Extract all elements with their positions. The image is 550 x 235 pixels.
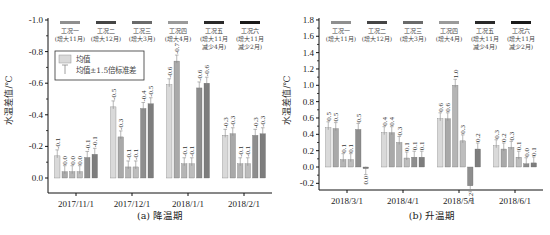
legend-case-name: 工况二 [97, 27, 115, 35]
bar [92, 154, 98, 178]
y-tick-label: 0.6 [303, 113, 315, 123]
bar [55, 156, 61, 178]
data-label: -0.1 [188, 145, 196, 157]
data-label: -0.3 [229, 115, 237, 127]
data-label: 0.5 [332, 112, 340, 121]
data-label: 0.1 [418, 141, 426, 150]
legend-case-desc: (增大11月) [55, 35, 85, 43]
legend-swatch [60, 21, 80, 24]
legend-case-name: 工况一 [61, 27, 79, 35]
y-tick-label: -0.2 [29, 141, 43, 151]
y-tick-label: 0.8 [303, 97, 315, 107]
chart-panel-a: -1.0-0.8-0.6-0.4-0.20.0 2017/11/12017/12… [3, 15, 272, 221]
y-tick-label: 0.2 [303, 146, 314, 156]
data-label: -0.2 [467, 192, 475, 204]
legend-case-desc: (增大4月) [436, 35, 463, 43]
bar [85, 157, 91, 178]
bar [174, 61, 180, 178]
legend-case-desc2: 减少2月) [509, 43, 533, 51]
case-legend-b: 工况一(增大11月)工况二(增大12月)工况三(增大3月)工况四(增大4月)工况… [326, 21, 535, 51]
legend-swatch [168, 21, 188, 24]
x-ticks-a: 2017/11/12017/12/12018/1/12018/2/1 [58, 193, 260, 209]
legend-case-desc: (增大12月) [91, 35, 121, 43]
legend-case-name: 工况五 [476, 27, 494, 35]
case-legend-a: 工况一(增大11月)工况二(增大12月)工况三(增大3月)工况四(增大4月)工况… [55, 21, 264, 51]
x-tick-label: 2018/1/1 [172, 199, 204, 209]
y-tick-label: 1.8 [303, 15, 315, 25]
data-label: 1.0 [452, 69, 460, 78]
bar [382, 133, 388, 167]
bar [189, 164, 195, 178]
data-label: 0.3 [508, 131, 516, 140]
legend-swatch [132, 21, 152, 24]
legend-case-desc: (增大4月) [165, 35, 192, 43]
legend-swatch [96, 21, 116, 24]
legend-case-name: 工况三 [404, 27, 422, 35]
y-tick-label: 0.4 [303, 129, 315, 139]
y-tick-label: 0.0 [303, 162, 315, 172]
legend-case-desc: (增大3月) [129, 35, 156, 43]
bar [494, 146, 500, 167]
data-label: 0.1 [347, 143, 355, 152]
data-label: 0.2 [474, 133, 482, 142]
y-tick-label: 1.6 [303, 31, 315, 41]
y-tick-label: -0.6 [29, 78, 44, 88]
bar [148, 104, 154, 178]
data-label: 0.3 [396, 126, 404, 135]
bar [397, 142, 403, 167]
bar [445, 119, 451, 167]
bar [253, 135, 259, 178]
legend-case-desc: (增大11月 [507, 35, 535, 43]
bar [230, 134, 236, 178]
bar [204, 83, 210, 178]
chart-panel-b: 1.81.61.41.21.00.80.60.40.20.0-0.2 2018/… [281, 15, 543, 221]
data-label: -0.6 [166, 66, 174, 78]
data-label: -0.1 [91, 136, 99, 148]
legend-case-name: 工况六 [512, 27, 530, 35]
y-tick-label: 1.0 [303, 80, 315, 90]
data-label: -0.1 [244, 145, 252, 157]
x-tick-label: 2018/6/1 [499, 196, 531, 206]
bar [356, 129, 362, 167]
errorbar-label: 均值±1.5倍标准差 [76, 65, 137, 75]
data-label: -0.7 [173, 42, 181, 54]
legend-swatch [403, 21, 423, 24]
y-tick-label: -0.2 [300, 178, 314, 188]
bar [501, 149, 507, 167]
data-label: 0.4 [388, 116, 396, 125]
x-ticks-b: 2018/3/12018/4/12018/5/12018/6/1 [331, 190, 531, 206]
y-tick-label: 1.4 [303, 48, 315, 58]
x-tick-label: 2018/4/1 [387, 196, 419, 206]
legend-case-name: 工况一 [332, 27, 350, 35]
data-label: -0.3 [259, 115, 267, 127]
data-label: -0.6 [203, 65, 211, 77]
bar [326, 128, 332, 167]
bar [438, 119, 444, 167]
bar [475, 149, 481, 167]
data-label: 0.6 [444, 103, 452, 112]
y-tick-label: 1.2 [303, 64, 314, 74]
legend-case-name: 工况四 [169, 27, 187, 35]
bar [260, 134, 266, 178]
bar [141, 108, 147, 178]
chart-title-a: (a) 降温期 [137, 210, 183, 221]
figure: -1.0-0.8-0.6-0.4-0.20.0 2017/11/12017/12… [0, 0, 550, 235]
legend-case-name: 工况四 [440, 27, 458, 35]
x-tick-label: 2017/11/1 [58, 199, 94, 209]
legend-case-name: 工况五 [205, 27, 223, 35]
legend-swatch [439, 21, 459, 24]
legend-swatch [511, 21, 531, 24]
legend-case-desc: (增大3月) [400, 35, 427, 43]
data-label: -0.1 [132, 148, 140, 160]
bar [460, 141, 466, 167]
bar [468, 167, 474, 186]
x-tick-label: 2018/3/1 [331, 196, 363, 206]
y-tick-label: 0.0 [32, 173, 44, 183]
legend-case-name: 工况二 [368, 27, 386, 35]
data-label: -0.5 [110, 88, 118, 100]
y-tick-label: -0.8 [29, 47, 44, 57]
data-label: 0.3 [459, 125, 467, 134]
x-tick-label: 2018/2/1 [228, 199, 260, 209]
legend-case-name: 工况六 [241, 27, 259, 35]
data-label: 0.0 [362, 175, 370, 184]
